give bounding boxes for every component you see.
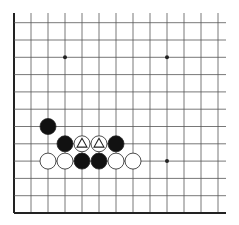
black-stone — [74, 153, 90, 169]
black-stone — [91, 153, 107, 169]
star-point-icon — [165, 159, 169, 163]
grid-lines — [14, 13, 226, 213]
star-point-icon — [63, 55, 67, 59]
white-stone — [57, 153, 73, 169]
white-stone — [125, 153, 141, 169]
black-stone — [57, 136, 73, 152]
white-stone — [108, 153, 124, 169]
star-point-icon — [165, 55, 169, 59]
go-board — [0, 0, 239, 225]
black-stone — [108, 136, 124, 152]
white-stone — [40, 153, 56, 169]
black-stone — [40, 119, 56, 135]
